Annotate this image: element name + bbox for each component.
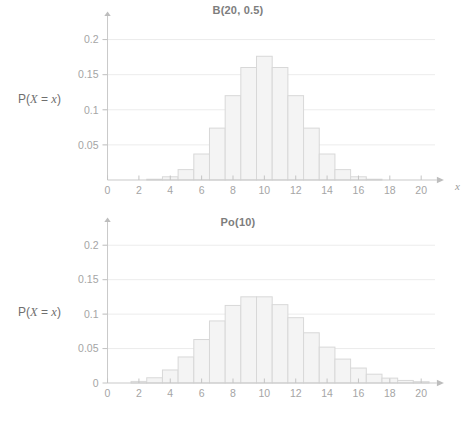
x-tick-label: 6 bbox=[199, 387, 205, 399]
bar-binomial bbox=[178, 170, 194, 180]
x-tick-label: 16 bbox=[353, 184, 365, 196]
x-tick-label: 4 bbox=[167, 387, 173, 399]
bar-poisson bbox=[241, 297, 257, 383]
x-tick-label: 12 bbox=[290, 387, 302, 399]
bar-poisson bbox=[288, 318, 304, 383]
bar-binomial bbox=[335, 170, 351, 180]
bar-poisson bbox=[272, 305, 288, 383]
bar-binomial bbox=[241, 68, 257, 181]
bar-binomial bbox=[257, 56, 273, 180]
bar-poisson bbox=[319, 347, 335, 383]
x-tick-label: 20 bbox=[415, 387, 427, 399]
y-tick-label: 0.2 bbox=[84, 239, 99, 251]
x-tick-label: 4 bbox=[167, 184, 173, 196]
x-tick-label: 0 bbox=[105, 387, 111, 399]
chart-panel-poisson: Po(10) P(X = x) x 0246810121416182000.05… bbox=[0, 210, 476, 420]
y-tick-label: 0.1 bbox=[84, 104, 99, 116]
y-tick-label: 0.05 bbox=[78, 342, 99, 354]
x-tick-label: 20 bbox=[415, 184, 427, 196]
bar-binomial bbox=[225, 96, 241, 180]
x-tick-label: 2 bbox=[136, 184, 142, 196]
y-tick-label: 0.05 bbox=[78, 139, 99, 151]
x-tick-label: 14 bbox=[321, 387, 333, 399]
y-axis-arrow bbox=[104, 12, 110, 17]
x-tick-label: 12 bbox=[290, 184, 302, 196]
figure-container: B(20, 0.5) P(X = x) x 024681012141618200… bbox=[0, 0, 476, 421]
x-tick-label: 6 bbox=[199, 184, 205, 196]
plot-area-binomial: 024681012141618200.050.10.150.2 bbox=[0, 0, 476, 210]
x-tick-label: 10 bbox=[259, 387, 271, 399]
bar-binomial bbox=[272, 68, 288, 181]
bar-poisson bbox=[366, 374, 382, 383]
plot-svg-binomial: 024681012141618200.050.10.150.2 bbox=[0, 0, 476, 210]
plot-svg-poisson: 0246810121416182000.050.10.150.2 bbox=[0, 210, 476, 420]
x-tick-label: 10 bbox=[259, 184, 271, 196]
x-tick-label: 16 bbox=[353, 387, 365, 399]
x-tick-label: 8 bbox=[230, 387, 236, 399]
y-axis-arrow bbox=[104, 218, 110, 223]
y-tick-label: 0.2 bbox=[84, 33, 99, 45]
chart-panel-binomial: B(20, 0.5) P(X = x) x 024681012141618200… bbox=[0, 0, 476, 210]
bar-binomial bbox=[209, 128, 225, 180]
y-tick-label: 0.15 bbox=[78, 68, 99, 80]
plot-area-poisson: 0246810121416182000.050.10.150.2 bbox=[0, 210, 476, 420]
bar-poisson bbox=[147, 378, 163, 383]
x-axis-arrow bbox=[437, 380, 444, 386]
bar-poisson bbox=[209, 321, 225, 383]
bar-poisson bbox=[225, 305, 241, 383]
bar-poisson bbox=[335, 359, 351, 383]
x-tick-label: 14 bbox=[321, 184, 333, 196]
x-tick-label: 18 bbox=[384, 387, 396, 399]
bar-binomial bbox=[288, 96, 304, 180]
x-tick-label: 18 bbox=[384, 184, 396, 196]
x-tick-label: 8 bbox=[230, 184, 236, 196]
x-axis-arrow bbox=[437, 177, 444, 183]
bar-poisson bbox=[194, 340, 210, 383]
bar-poisson bbox=[257, 297, 273, 383]
bar-binomial bbox=[304, 128, 320, 180]
x-tick-label: 0 bbox=[105, 184, 111, 196]
y-tick-label: 0 bbox=[93, 377, 99, 389]
bar-poisson bbox=[178, 357, 194, 383]
y-tick-label: 0.15 bbox=[78, 273, 99, 285]
y-tick-label: 0.1 bbox=[84, 308, 99, 320]
x-tick-label: 2 bbox=[136, 387, 142, 399]
bar-poisson bbox=[304, 333, 320, 383]
